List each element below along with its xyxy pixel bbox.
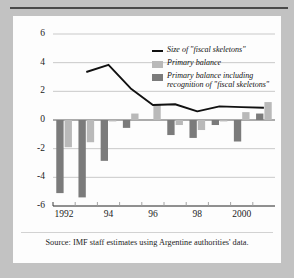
x-axis-tick-label: 1992 [47, 209, 81, 219]
bar [256, 114, 263, 120]
bar [242, 112, 249, 120]
legend-item-primary-balance: Primary balance [152, 58, 280, 68]
y-axis-tick-label: -4 [23, 171, 45, 181]
legend-label: Primary balance including recognition of… [167, 71, 280, 90]
footer-divider [21, 232, 273, 233]
bar [87, 120, 94, 142]
top-rule-divider [10, 7, 288, 9]
bar [234, 120, 241, 142]
x-axis-tick-label: 96 [136, 209, 170, 219]
legend-item-fiscal-skeletons: Size of "fiscal skeletons" [152, 45, 280, 55]
bar [220, 120, 227, 121]
bar [65, 120, 72, 147]
bar [198, 120, 205, 130]
legend-label: Primary balance [167, 58, 221, 68]
bar [78, 120, 85, 197]
bar [131, 114, 138, 120]
bar [212, 120, 219, 125]
x-axis-tick-label: 2000 [225, 209, 259, 219]
legend-item-primary-balance-including: Primary balance including recognition of… [152, 71, 280, 90]
y-axis-tick-label: 2 [23, 85, 45, 95]
y-axis-tick-label: 6 [23, 28, 45, 38]
legend-swatch-icon [152, 74, 163, 81]
bar [167, 120, 174, 135]
bar [101, 120, 108, 161]
y-axis-tick-label: 4 [23, 57, 45, 67]
bar [176, 120, 183, 125]
source-note: Source: IMF staff estimates using Argent… [13, 238, 281, 247]
chart-card: 6420-2-4-619929496982000 Size of "fiscal… [13, 16, 281, 263]
bar [264, 102, 271, 120]
x-axis-tick-label: 98 [180, 209, 214, 219]
figure-panel: 6420-2-4-619929496982000 Size of "fiscal… [0, 0, 294, 278]
bar [109, 120, 116, 121]
bar [56, 120, 63, 193]
bar [123, 120, 130, 128]
y-axis-tick-label: -6 [23, 200, 45, 210]
y-axis-tick-label: -2 [23, 143, 45, 153]
bar [153, 104, 160, 120]
legend-swatch-icon [152, 61, 163, 68]
bar [189, 120, 196, 138]
legend-label: Size of "fiscal skeletons" [167, 45, 245, 55]
x-axis-tick-label: 94 [92, 209, 126, 219]
legend-line-marker-icon [152, 50, 163, 52]
chart-legend: Size of "fiscal skeletons" Primary balan… [152, 45, 280, 93]
y-axis-tick-label: 0 [23, 114, 45, 124]
